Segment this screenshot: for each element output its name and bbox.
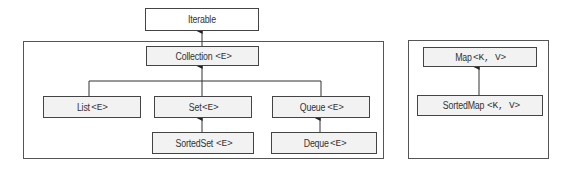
node-iterable: Iterable bbox=[145, 8, 259, 31]
node-set: Set<E> bbox=[154, 96, 252, 118]
node-deque: Deque<E> bbox=[271, 132, 377, 154]
node-map: Map<K, V> bbox=[423, 47, 537, 67]
edge-bus bbox=[89, 81, 321, 96]
node-list: List<E> bbox=[43, 96, 141, 118]
node-sortedset: SortedSet<E> bbox=[152, 132, 254, 154]
node-queue: Queue<E> bbox=[272, 96, 370, 118]
node-sortedmap: SortedMap<K, V> bbox=[417, 95, 543, 116]
node-collection: Collection<E> bbox=[146, 46, 259, 66]
